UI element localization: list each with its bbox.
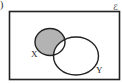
set-x-label: X bbox=[31, 49, 38, 59]
set-y-label: Y bbox=[96, 65, 103, 75]
universal-set-symbol: ℰ bbox=[113, 3, 118, 12]
venn-diagram: ) ℰ X Y bbox=[0, 0, 122, 83]
set-y-circle bbox=[54, 37, 99, 75]
part-marker: ) bbox=[0, 0, 3, 11]
